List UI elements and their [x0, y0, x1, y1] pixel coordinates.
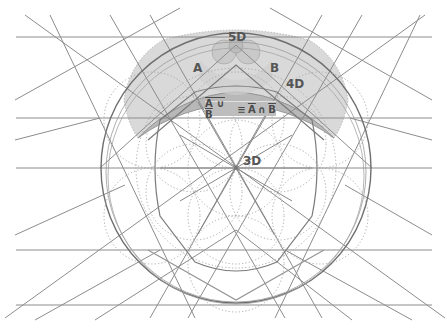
formula-not-a: A [248, 104, 256, 115]
construction-lines [5, 8, 445, 320]
center-point [234, 166, 238, 170]
label-5d: 5D [228, 30, 246, 44]
label-3d: 3D [243, 154, 261, 168]
label-b: B [270, 61, 279, 75]
label-a: A [193, 61, 203, 75]
formula-intersection: ∩ [258, 104, 266, 115]
formula-equiv: ≡ [237, 104, 246, 115]
formula-union-overlined: A ∪ B [205, 98, 235, 120]
formula-not-b: B [268, 104, 276, 115]
geometry-diagram: 5D A B 4D 3D [0, 0, 447, 335]
de-morgan-formula: A ∪ B ≡ A ∩ B [205, 101, 276, 116]
label-4d: 4D [286, 77, 304, 91]
